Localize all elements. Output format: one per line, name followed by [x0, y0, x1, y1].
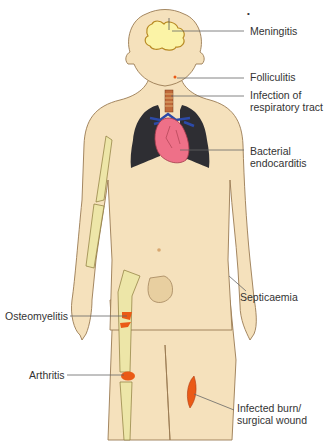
label-endocarditis: Bacterial endocarditis	[250, 145, 307, 169]
arthritis-lesion	[121, 372, 135, 381]
label-infected-wound: Infected burn/ surgical wound	[237, 402, 307, 426]
label-osteomyelitis: Osteomyelitis	[5, 310, 68, 322]
folliculitis-spot	[174, 76, 177, 79]
label-septicaemia: Septicaemia	[240, 291, 298, 303]
label-respiratory-infection: Infection of respiratory tract	[250, 89, 323, 113]
label-meningitis: Meningitis	[250, 25, 297, 37]
label-arthritis: Arthritis	[29, 369, 65, 381]
top-marker: •	[247, 8, 250, 20]
trachea	[165, 90, 173, 112]
label-folliculitis: Folliculitis	[250, 71, 296, 83]
